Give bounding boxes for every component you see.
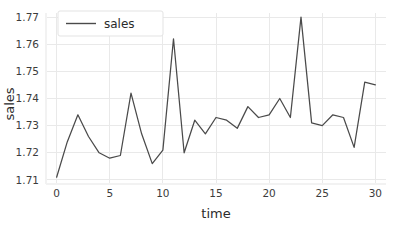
x-tick-label: 0 [53,187,60,199]
y-tick-label: 1.75 [16,65,39,77]
y-axis-title: sales [2,87,17,120]
chart-legend: sales [58,11,163,36]
gridlines [46,13,386,184]
x-tick-label: 25 [316,187,329,199]
x-axis-title: time [201,206,230,221]
y-tick-label: 1.74 [16,92,40,104]
x-tick-label: 15 [209,187,222,199]
y-tick-label: 1.73 [16,119,39,131]
x-tick-label: 30 [369,187,382,199]
x-tick-label: 20 [262,187,275,199]
line-chart: 1.711.721.731.741.751.761.77 05101520253… [0,0,395,226]
chart-figure: 1.711.721.731.741.751.761.77 05101520253… [0,0,395,226]
y-tick-label: 1.77 [16,11,39,23]
legend-label: sales [104,17,135,31]
y-tick-labels: 1.711.721.731.741.751.761.77 [16,11,40,186]
x-tick-label: 10 [156,187,169,199]
x-tick-labels: 051015202530 [53,187,382,199]
y-tick-label: 1.71 [16,174,39,186]
y-tick-label: 1.76 [16,38,40,50]
y-tick-label: 1.72 [16,146,39,158]
x-tick-label: 5 [106,187,113,199]
